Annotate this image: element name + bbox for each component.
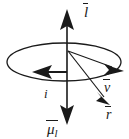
current-label: i [44, 85, 48, 100]
mu-l-vector-label: μl [47, 120, 58, 139]
v-vector-label: v [104, 79, 110, 95]
l-vector-label: l [84, 3, 88, 20]
velocity-arrowhead [103, 64, 124, 76]
physics-vector-diagram: l μl v r i [0, 0, 129, 139]
r-vector-label: r [106, 106, 111, 122]
